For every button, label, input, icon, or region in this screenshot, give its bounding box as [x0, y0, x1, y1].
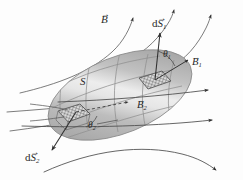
field-line-8 [44, 149, 216, 172]
vector-arrow-icon: → [137, 97, 143, 105]
label-theta1-sub: 1 [168, 54, 171, 60]
label-surface-S: S [80, 76, 86, 87]
label-theta1: θ1 [163, 50, 171, 61]
vector-arrow-icon: → [192, 54, 198, 62]
open-surface-S [35, 31, 204, 158]
label-theta2-sub: 2 [93, 125, 96, 131]
label-B2: →B2 [137, 100, 147, 111]
label-dS2-sub: 2 [36, 157, 39, 164]
label-B2-sub: 2 [143, 104, 146, 111]
label-B1-sub: 1 [198, 61, 201, 68]
vector-arrow-icon: → [101, 10, 108, 19]
vector-arrow-icon: → [158, 14, 164, 23]
label-dS1-sub: 1 [163, 23, 166, 30]
vector-arrow-icon: → [31, 148, 37, 157]
label-surface-S-text: S [80, 75, 86, 87]
label-B1: →B1 [192, 57, 202, 68]
label-theta2: θ2 [88, 121, 96, 132]
magnetic-flux-diagram: →B d→S1 θ1 →B1 S →B2 θ2 d→S2 [0, 0, 243, 180]
label-dS2: d→S2 [25, 152, 39, 165]
label-dS1: d→S1 [152, 18, 166, 31]
label-field-B: →B [101, 14, 108, 25]
